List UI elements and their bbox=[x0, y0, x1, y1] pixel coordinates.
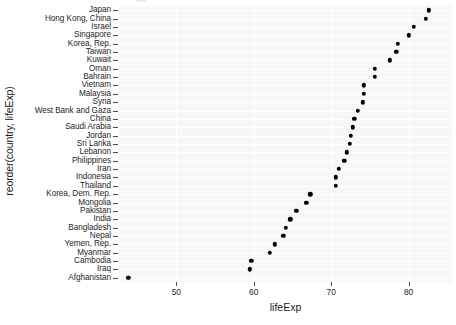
gridline-horizontal-major bbox=[119, 211, 452, 212]
data-point bbox=[272, 242, 276, 246]
x-axis-tick-mark bbox=[254, 282, 255, 286]
y-axis-tick-mark bbox=[113, 253, 118, 254]
y-axis-tick-mark bbox=[113, 102, 118, 103]
data-point bbox=[406, 33, 410, 37]
data-point bbox=[308, 192, 312, 196]
data-point bbox=[396, 41, 400, 45]
y-axis-tick-mark bbox=[113, 69, 118, 70]
y-axis-tick-mark bbox=[113, 111, 118, 112]
gridline-horizontal-major bbox=[119, 136, 452, 137]
y-axis-tick-mark bbox=[113, 177, 118, 178]
x-axis-tick-mark bbox=[176, 282, 177, 286]
x-axis-title-text: lifeExp bbox=[270, 301, 302, 313]
data-point bbox=[283, 225, 287, 229]
y-axis-tick-mark bbox=[113, 194, 118, 195]
y-axis-tick-mark bbox=[113, 44, 118, 45]
gridline-horizontal-major bbox=[119, 186, 452, 187]
x-axis-tick-label: 80 bbox=[404, 287, 413, 297]
data-point bbox=[362, 83, 366, 87]
x-axis-tick-label: 60 bbox=[249, 287, 258, 297]
x-axis-tick-marks bbox=[119, 282, 452, 286]
data-point bbox=[281, 234, 285, 238]
data-point bbox=[361, 100, 365, 104]
y-axis-tick-mark bbox=[113, 186, 118, 187]
gridline-horizontal-major bbox=[119, 278, 452, 279]
gridline-horizontal-major bbox=[119, 244, 452, 245]
gridline-horizontal-major bbox=[119, 94, 452, 95]
plot-panel bbox=[119, 6, 452, 282]
data-point bbox=[423, 16, 427, 20]
data-point bbox=[348, 142, 352, 146]
y-axis-tick-mark bbox=[113, 169, 118, 170]
data-point bbox=[388, 58, 392, 62]
y-axis-tick-mark bbox=[113, 219, 118, 220]
y-axis-tick-mark bbox=[113, 278, 118, 279]
data-point bbox=[355, 108, 359, 112]
y-axis-tick-mark bbox=[113, 161, 118, 162]
x-axis-tick-mark bbox=[331, 282, 332, 286]
data-point bbox=[334, 175, 338, 179]
gridline-horizontal-major bbox=[119, 111, 452, 112]
gridline-horizontal-major bbox=[119, 236, 452, 237]
y-axis-tick-mark bbox=[113, 119, 118, 120]
y-axis-tick-label: Afghanistan bbox=[68, 273, 111, 283]
y-axis-tick-mark bbox=[113, 261, 118, 262]
x-axis-tick-mark bbox=[409, 282, 410, 286]
data-point bbox=[427, 8, 431, 12]
x-axis-tick-label: 50 bbox=[172, 287, 181, 297]
data-point bbox=[372, 67, 376, 71]
y-axis-tick-mark bbox=[113, 211, 118, 212]
y-axis-tick-mark bbox=[113, 203, 118, 204]
x-axis-tick-label: 70 bbox=[327, 287, 336, 297]
y-axis-tick-mark bbox=[113, 127, 118, 128]
gridline-horizontal-major bbox=[119, 169, 452, 170]
data-point bbox=[351, 125, 355, 129]
gridline-horizontal-major bbox=[119, 102, 452, 103]
y-axis-tick-mark bbox=[113, 85, 118, 86]
y-axis-tick-mark bbox=[113, 94, 118, 95]
gridline-horizontal-major bbox=[119, 253, 452, 254]
gridline-horizontal-major bbox=[119, 60, 452, 61]
gridline-horizontal-major bbox=[119, 119, 452, 120]
y-axis-tick-mark bbox=[113, 77, 118, 78]
gridline-horizontal-major bbox=[119, 35, 452, 36]
data-point bbox=[126, 276, 130, 280]
gridline-horizontal-major bbox=[119, 19, 452, 20]
data-point bbox=[294, 209, 298, 213]
data-point bbox=[344, 150, 348, 154]
data-point bbox=[342, 159, 346, 163]
gridline-horizontal-major bbox=[119, 27, 452, 28]
y-axis-tick-mark bbox=[113, 136, 118, 137]
gridline-horizontal-major bbox=[119, 177, 452, 178]
data-point bbox=[352, 117, 356, 121]
dot-plot-chart: reorder(country, lifeExp) JapanHong Kong… bbox=[0, 0, 456, 325]
y-axis-tick-mark bbox=[113, 244, 118, 245]
data-point bbox=[334, 184, 338, 188]
x-axis-title: lifeExp bbox=[119, 301, 452, 313]
y-axis-tick-mark bbox=[113, 35, 118, 36]
gridline-horizontal-major bbox=[119, 69, 452, 70]
y-axis-tick-mark bbox=[113, 52, 118, 53]
gridline-horizontal-major bbox=[119, 44, 452, 45]
gridline-horizontal-major bbox=[119, 261, 452, 262]
data-point bbox=[362, 92, 366, 96]
y-axis-tick-mark bbox=[113, 152, 118, 153]
y-axis-tick-mark bbox=[113, 236, 118, 237]
y-axis-tick-mark bbox=[113, 228, 118, 229]
data-point bbox=[304, 200, 308, 204]
gridline-horizontal-major bbox=[119, 10, 452, 11]
y-axis-tick-mark bbox=[113, 10, 118, 11]
y-axis-tick-mark bbox=[113, 19, 118, 20]
y-axis-title: reorder(country, lifeExp) bbox=[0, 0, 18, 282]
data-point bbox=[394, 50, 398, 54]
gridline-horizontal-major bbox=[119, 161, 452, 162]
data-point bbox=[248, 267, 252, 271]
gridline-horizontal-major bbox=[119, 127, 452, 128]
data-point bbox=[412, 25, 416, 29]
y-axis-tick-mark bbox=[113, 269, 118, 270]
y-axis-title-text: reorder(country, lifeExp) bbox=[3, 86, 15, 195]
data-point bbox=[337, 167, 341, 171]
gridline-horizontal-major bbox=[119, 269, 452, 270]
gridline-horizontal-major bbox=[119, 52, 452, 53]
gridline-horizontal-major bbox=[119, 77, 452, 78]
